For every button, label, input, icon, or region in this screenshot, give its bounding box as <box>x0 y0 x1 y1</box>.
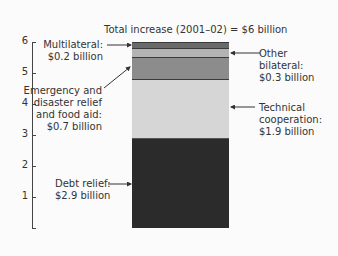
label-line: $2.9 billion <box>55 190 111 202</box>
label-technical: Technical cooperation: $1.9 billion <box>259 102 322 138</box>
label-line: Other <box>259 48 314 60</box>
label-line: $1.9 billion <box>259 126 322 138</box>
label-line: Technical <box>259 102 322 114</box>
label-line: Multilateral: <box>40 39 103 51</box>
label-emergency: Emergency and disaster relief and food a… <box>20 85 102 133</box>
label-line: $0.7 billion <box>20 121 102 133</box>
label-line: Debt relief: <box>55 178 111 190</box>
label-line: Emergency and <box>20 85 102 97</box>
label-line: bilateral: <box>259 60 314 72</box>
label-multilateral: Multilateral: $0.2 billion <box>40 39 103 63</box>
label-line: cooperation: <box>259 114 322 126</box>
label-line: disaster relief <box>20 97 102 109</box>
label-debt-relief: Debt relief: $2.9 billion <box>55 178 111 202</box>
label-other-bilateral: Other bilateral: $0.3 billion <box>259 48 314 84</box>
label-line: $0.2 billion <box>40 51 103 63</box>
label-line: and food aid: <box>20 109 102 121</box>
label-line: $0.3 billion <box>259 72 314 84</box>
